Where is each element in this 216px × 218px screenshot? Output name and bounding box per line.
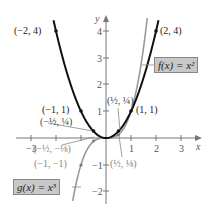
point-label-2-4: (2, 4) (160, 25, 182, 37)
g-function-label: g(x) = x³ (13, 179, 60, 195)
point-label-mhalf-meighth: (−½, −⅛) (33, 143, 71, 155)
y-axis-arrow-icon (103, 15, 109, 22)
tick-label: 4 (97, 26, 102, 37)
point-label-mhalf-quarter: (−½, ¼) (40, 116, 72, 128)
tick-label: 3 (179, 143, 184, 154)
y-axis-label: y (94, 13, 100, 24)
tick-label: 2 (97, 79, 102, 90)
tick-label: −2 (92, 186, 103, 197)
tick-label: −1 (92, 160, 103, 171)
point-label-half-quarter: (½, ¼) (107, 95, 134, 107)
x-axis-label: x (195, 141, 201, 152)
f-function-label: f(x) = x² (154, 57, 198, 73)
point-label-m1-1: (−1, 1) (42, 104, 69, 116)
point-label-m1-m1: (−1, −1) (34, 158, 67, 170)
point-label-m2-4: (−2, 4) (14, 25, 41, 37)
tick-label: 1 (129, 143, 134, 154)
point-label-half-eighth: (½, ⅛) (110, 158, 137, 170)
tick-label: 1 (97, 106, 102, 117)
tick-label: 3 (97, 53, 102, 64)
point-label-1-1: (1, 1) (136, 104, 158, 116)
tick-label: 2 (154, 143, 159, 154)
